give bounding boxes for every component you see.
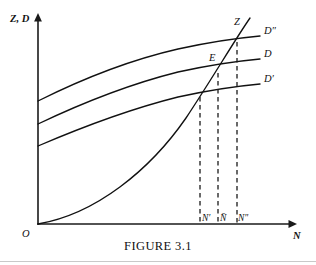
y-axis-label: Z, D [9,13,30,24]
curve-label-d-middle: D [263,48,272,59]
tick-label-n-bar: N̄ [219,213,227,223]
equilibrium-point-label: E [208,52,216,63]
bottom-divider [0,261,316,262]
y-axis-arrow-icon [34,13,42,22]
curve-label-d-lower: D′ [263,73,275,84]
figure-container: Z, D N O Z D″ D D′ E N′ N̄ N″ FIGURE 3.1 [0,0,316,265]
curve-label-z: Z [234,16,240,27]
curve-label-d-upper: D″ [263,25,277,36]
curve-d-upper [38,36,260,101]
economics-diagram: Z, D N O Z D″ D D′ E N′ N̄ N″ [0,0,316,265]
x-axis-arrow-icon [289,220,298,228]
tick-label-n-lower: N′ [201,213,211,223]
figure-caption: FIGURE 3.1 [0,239,316,254]
origin-label: O [22,228,30,239]
curve-d-middle [38,59,260,124]
curve-d-lower [38,84,260,146]
tick-label-n-upper: N″ [237,213,249,223]
